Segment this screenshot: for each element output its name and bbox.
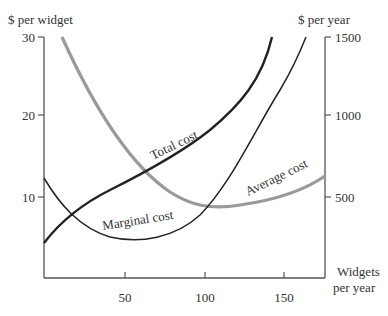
tick-label-10: 10 [22, 190, 35, 205]
x-title-line1: Widgets [337, 264, 380, 279]
average-cost-curve [62, 37, 325, 207]
tick-label-100: 100 [195, 290, 215, 305]
y-left-title: $ per widget [8, 12, 73, 27]
tick-label-150: 150 [274, 290, 294, 305]
y-right-title: $ per year [298, 12, 351, 27]
total-cost-label: Total cost [148, 127, 201, 163]
tick-label-1500: 1500 [335, 30, 361, 45]
tick-label-500: 500 [335, 190, 355, 205]
tick-label-1000: 1000 [335, 108, 361, 123]
tick-label-20: 20 [22, 108, 35, 123]
x-title-line2: per year [333, 280, 376, 295]
marginal-cost-label: Marginal cost [101, 207, 174, 233]
cost-curves-chart: 30 20 10 1500 1000 500 50 100 150 $ per … [0, 0, 388, 316]
tick-label-50: 50 [119, 290, 132, 305]
tick-label-30: 30 [22, 30, 35, 45]
average-cost-label: Average cost [243, 156, 310, 199]
